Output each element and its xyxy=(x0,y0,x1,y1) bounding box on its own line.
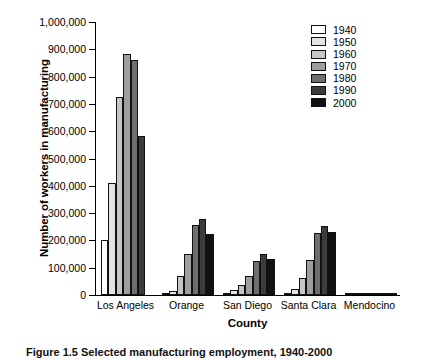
bar xyxy=(245,276,252,295)
legend: 1940195019601970198019902000 xyxy=(311,24,356,109)
legend-label: 1990 xyxy=(333,85,356,96)
x-tick-label: Los Angeles xyxy=(97,299,154,311)
y-tick-label: 1,000,000 xyxy=(39,16,86,28)
bar-chart: Number of workers in manufacturing 0100,… xyxy=(0,0,435,360)
bar xyxy=(116,97,123,295)
bar xyxy=(184,254,191,295)
x-tick-label: San Diego xyxy=(223,299,272,311)
legend-swatch xyxy=(311,25,326,34)
x-tick-label: Santa Clara xyxy=(281,299,336,311)
bar xyxy=(267,259,274,295)
y-tick-label: 900,000 xyxy=(48,43,86,55)
bar xyxy=(328,232,335,295)
y-tick-label: 500,000 xyxy=(48,153,86,165)
legend-label: 1950 xyxy=(333,37,356,48)
legend-label: 1940 xyxy=(333,25,356,36)
legend-item: 1990 xyxy=(311,85,356,97)
bar xyxy=(199,219,206,295)
y-tick-label: 100,000 xyxy=(48,262,86,274)
y-tick-label: 400,000 xyxy=(48,180,86,192)
legend-item: 1950 xyxy=(311,36,356,48)
y-tick-label: 600,000 xyxy=(48,125,86,137)
bar-group: Los Angeles xyxy=(95,22,156,295)
bar xyxy=(253,261,260,295)
legend-label: 2000 xyxy=(333,98,356,109)
legend-label: 1960 xyxy=(333,49,356,60)
legend-swatch xyxy=(311,98,326,107)
bar-group: Orange xyxy=(156,22,217,295)
bar xyxy=(389,293,396,295)
bar xyxy=(360,293,367,295)
bar xyxy=(230,290,237,295)
bar xyxy=(162,293,169,295)
bar xyxy=(382,293,389,295)
legend-item: 1970 xyxy=(311,61,356,73)
y-tick-label: 700,000 xyxy=(48,98,86,110)
bar xyxy=(238,285,245,295)
bar xyxy=(177,276,184,295)
bar xyxy=(299,278,306,295)
bar xyxy=(131,60,138,295)
bar xyxy=(291,289,298,295)
y-tick-label: 300,000 xyxy=(48,207,86,219)
bar xyxy=(123,54,130,295)
legend-item: 2000 xyxy=(311,97,356,109)
legend-swatch xyxy=(311,37,326,46)
legend-swatch xyxy=(311,86,326,95)
bar xyxy=(345,293,352,295)
bar-group: San Diego xyxy=(217,22,278,295)
bar xyxy=(367,293,374,295)
y-tick-label: 800,000 xyxy=(48,71,86,83)
legend-label: 1980 xyxy=(333,73,356,84)
bar xyxy=(138,136,145,295)
bar xyxy=(101,240,108,295)
x-tick-label: Mendocino xyxy=(344,299,395,311)
bar xyxy=(223,293,230,295)
legend-item: 1980 xyxy=(311,73,356,85)
legend-label: 1970 xyxy=(333,61,356,72)
bar xyxy=(375,293,382,295)
y-tick-label: 0 xyxy=(80,289,86,301)
bar xyxy=(169,291,176,295)
legend-swatch xyxy=(311,74,326,83)
bar xyxy=(260,254,267,295)
legend-item: 1940 xyxy=(311,24,356,36)
bar xyxy=(306,260,313,295)
bar xyxy=(321,226,328,295)
bar xyxy=(192,225,199,295)
bar xyxy=(284,293,291,295)
bar xyxy=(108,183,115,295)
figure-caption: Figure 1.5 Selected manufacturing employ… xyxy=(26,346,426,358)
y-tick xyxy=(89,295,95,296)
y-tick-label: 200,000 xyxy=(48,234,86,246)
bar xyxy=(352,293,359,295)
bar xyxy=(206,234,213,295)
x-tick-label: Orange xyxy=(169,299,204,311)
legend-item: 1960 xyxy=(311,48,356,60)
legend-swatch xyxy=(311,62,326,71)
legend-swatch xyxy=(311,50,326,59)
bar xyxy=(314,233,321,295)
x-axis-line xyxy=(95,295,400,296)
x-axis-title: County xyxy=(95,317,400,329)
